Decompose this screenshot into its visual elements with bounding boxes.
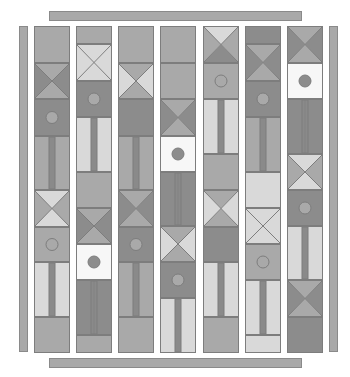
- pipe-tile[interactable]: [76, 280, 112, 335]
- plain-tile[interactable]: [76, 335, 112, 353]
- column-2[interactable]: [76, 26, 112, 353]
- pipe-tile[interactable]: [34, 262, 70, 317]
- circle-tile[interactable]: [76, 244, 112, 280]
- cross-tile[interactable]: [118, 63, 154, 99]
- plain-tile[interactable]: [203, 154, 239, 190]
- circle-tile[interactable]: [287, 190, 323, 226]
- cross-tile[interactable]: [287, 26, 323, 63]
- column-3[interactable]: [118, 26, 154, 353]
- pipe-tile[interactable]: [160, 172, 196, 226]
- plain-tile[interactable]: [287, 317, 323, 353]
- plain-tile[interactable]: [245, 335, 281, 353]
- cross-tile[interactable]: [76, 208, 112, 244]
- circle-tile[interactable]: [245, 81, 281, 117]
- cross-tile[interactable]: [160, 226, 196, 262]
- pipe-tile[interactable]: [118, 136, 154, 190]
- cross-tile[interactable]: [245, 44, 281, 81]
- plain-tile[interactable]: [118, 99, 154, 136]
- cross-tile[interactable]: [287, 280, 323, 317]
- plain-tile[interactable]: [118, 317, 154, 353]
- column-7[interactable]: [287, 26, 323, 353]
- circle-tile[interactable]: [160, 262, 196, 298]
- plain-tile[interactable]: [34, 317, 70, 353]
- circle-tile[interactable]: [203, 63, 239, 99]
- pipe-tile[interactable]: [160, 298, 196, 353]
- plain-tile[interactable]: [34, 26, 70, 63]
- plain-tile[interactable]: [203, 317, 239, 353]
- pipe-tile[interactable]: [287, 226, 323, 280]
- circle-tile[interactable]: [34, 99, 70, 136]
- circle-tile[interactable]: [160, 136, 196, 172]
- pipe-tile[interactable]: [76, 117, 112, 172]
- cross-tile[interactable]: [287, 154, 323, 190]
- right-rail: [329, 26, 338, 352]
- plain-tile[interactable]: [203, 227, 239, 262]
- cross-tile[interactable]: [76, 44, 112, 81]
- circle-tile[interactable]: [287, 63, 323, 99]
- circle-tile[interactable]: [76, 81, 112, 117]
- column-1[interactable]: [34, 26, 70, 353]
- column-6[interactable]: [245, 26, 281, 353]
- plain-tile[interactable]: [76, 172, 112, 208]
- plain-tile[interactable]: [76, 26, 112, 44]
- plain-tile[interactable]: [118, 26, 154, 63]
- plain-tile[interactable]: [245, 172, 281, 208]
- column-4[interactable]: [160, 26, 196, 353]
- top-rail: [49, 11, 302, 21]
- plain-tile[interactable]: [160, 26, 196, 63]
- circle-tile[interactable]: [118, 227, 154, 262]
- pipe-tile[interactable]: [287, 99, 323, 154]
- pipe-tile[interactable]: [203, 262, 239, 317]
- plain-tile[interactable]: [245, 26, 281, 44]
- column-5[interactable]: [203, 26, 239, 353]
- cross-tile[interactable]: [203, 190, 239, 227]
- pipe-tile[interactable]: [118, 262, 154, 317]
- cross-tile[interactable]: [245, 208, 281, 244]
- pipe-tile[interactable]: [245, 280, 281, 335]
- cross-tile[interactable]: [34, 63, 70, 99]
- pipe-tile[interactable]: [203, 99, 239, 154]
- circle-tile[interactable]: [245, 244, 281, 280]
- cross-tile[interactable]: [160, 99, 196, 136]
- pipe-tile[interactable]: [34, 136, 70, 190]
- plain-tile[interactable]: [160, 63, 196, 99]
- circle-tile[interactable]: [34, 227, 70, 262]
- left-rail: [19, 26, 28, 352]
- cross-tile[interactable]: [118, 190, 154, 227]
- cross-tile[interactable]: [203, 26, 239, 63]
- bottom-rail: [49, 358, 302, 368]
- pipe-tile[interactable]: [245, 117, 281, 172]
- cross-tile[interactable]: [34, 190, 70, 227]
